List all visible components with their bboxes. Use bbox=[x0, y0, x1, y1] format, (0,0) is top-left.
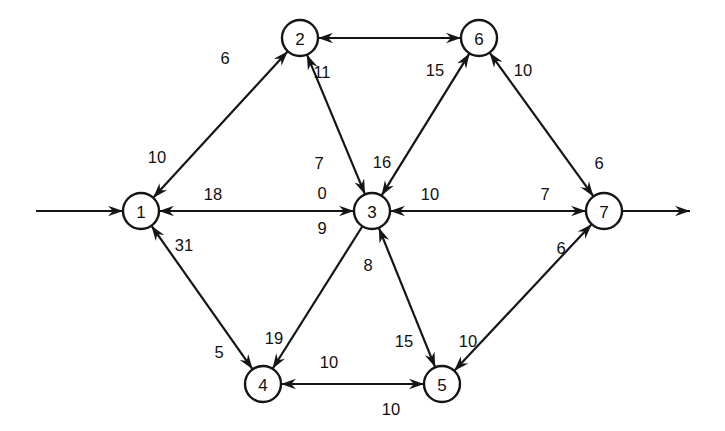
edge-1-4 bbox=[151, 226, 252, 370]
edge-weight-2-3: 7 bbox=[314, 154, 323, 172]
node-6[interactable]: 6 bbox=[461, 20, 497, 56]
edge-weight-5-7: 6 bbox=[556, 239, 565, 257]
edge-weight-3-6: 15 bbox=[426, 61, 444, 79]
edge-weight-6-7: 6 bbox=[594, 154, 603, 172]
edge-weight-1-3: 0 bbox=[317, 184, 326, 202]
node-label-4: 4 bbox=[258, 376, 267, 395]
edge-weight-3-1: 18 bbox=[204, 185, 222, 203]
arrowhead-1-to-4 bbox=[240, 354, 253, 369]
edge-weight-7-3: 10 bbox=[421, 185, 439, 203]
edge-weight-1-2: 6 bbox=[220, 49, 229, 67]
edge-weight-2-1: 10 bbox=[148, 148, 166, 166]
node-label-1: 1 bbox=[136, 203, 145, 222]
edge-weight-7-6: 10 bbox=[514, 61, 532, 79]
node-label-6: 6 bbox=[474, 30, 483, 49]
edge-weight-5-3: 8 bbox=[363, 256, 372, 274]
edge-6-7 bbox=[490, 53, 594, 197]
edge-weight-4-1: 31 bbox=[175, 236, 193, 254]
node-2[interactable]: 2 bbox=[282, 20, 318, 56]
arrowhead-4-to-1 bbox=[151, 226, 164, 241]
edge-1-2 bbox=[153, 51, 288, 197]
edge-weight-3-7: 7 bbox=[540, 185, 549, 203]
arrowhead-6-to-3 bbox=[381, 180, 393, 195]
node-5[interactable]: 5 bbox=[424, 366, 460, 402]
edge-weight-1-4: 5 bbox=[214, 343, 223, 361]
arrowhead-3-to-4 bbox=[273, 353, 285, 368]
edge-weight-3-5: 15 bbox=[395, 332, 413, 350]
network-diagram: 1234567 61011701891516106710315198151010… bbox=[0, 0, 725, 431]
node-3[interactable]: 3 bbox=[354, 193, 390, 229]
edge-labels-layer: 61011701891516106710315198151010610 bbox=[148, 49, 604, 418]
edge-weight-3-4: 19 bbox=[265, 329, 283, 347]
node-7[interactable]: 7 bbox=[586, 193, 622, 229]
node-1[interactable]: 1 bbox=[123, 193, 159, 229]
edge-weight-1-3: 9 bbox=[317, 219, 326, 237]
arrowhead-3-to-6 bbox=[457, 53, 469, 68]
arrowhead-7-to-6 bbox=[490, 53, 503, 68]
node-label-7: 7 bbox=[599, 203, 608, 222]
node-label-5: 5 bbox=[437, 376, 446, 395]
edge-weight-3-2: 11 bbox=[313, 63, 330, 81]
node-label-3: 3 bbox=[367, 203, 376, 222]
node-4[interactable]: 4 bbox=[245, 366, 281, 402]
edge-weight-7-5: 10 bbox=[459, 332, 477, 350]
edge-weight-5-4: 10 bbox=[320, 353, 338, 371]
edge-weight-4-5: 10 bbox=[382, 400, 400, 418]
edge-3-4 bbox=[273, 226, 363, 369]
arrowhead-6-to-7 bbox=[580, 181, 593, 196]
graph-canvas: 1234567 61011701891516106710315198151010… bbox=[0, 0, 725, 431]
edge-weight-6-3: 16 bbox=[373, 153, 391, 171]
node-label-2: 2 bbox=[295, 30, 304, 49]
